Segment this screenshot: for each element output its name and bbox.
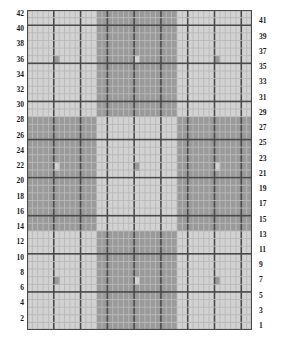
row-label-41: 41 <box>259 17 267 25</box>
row-label-21: 21 <box>259 170 267 178</box>
row-label-42: 42 <box>17 10 25 18</box>
row-label-14: 14 <box>17 223 25 231</box>
row-label-3: 3 <box>259 307 263 315</box>
row-label-31: 31 <box>259 94 267 102</box>
row-label-38: 38 <box>17 40 25 48</box>
row-labels-right-axis: 4139373533312927252321191715131197531 <box>252 0 283 341</box>
row-label-18: 18 <box>17 193 25 201</box>
row-label-24: 24 <box>17 147 25 155</box>
row-label-40: 40 <box>17 25 25 33</box>
chart-grid[interactable] <box>27 10 252 330</box>
row-label-23: 23 <box>259 155 267 163</box>
row-label-27: 27 <box>259 124 267 132</box>
row-label-2: 2 <box>20 315 24 323</box>
row-label-15: 15 <box>259 216 267 224</box>
row-labels-left-axis: 42403836343230282624222018161412108642 <box>0 0 27 341</box>
row-label-5: 5 <box>259 292 263 300</box>
row-label-10: 10 <box>17 254 25 262</box>
row-label-26: 26 <box>17 132 25 140</box>
row-label-20: 20 <box>17 177 25 185</box>
row-label-6: 6 <box>20 284 24 292</box>
row-label-35: 35 <box>259 63 267 71</box>
row-label-39: 39 <box>259 33 267 41</box>
row-label-19: 19 <box>259 185 267 193</box>
row-label-9: 9 <box>259 261 263 269</box>
knitting-chart: 42403836343230282624222018161412108642 4… <box>0 0 283 341</box>
row-label-32: 32 <box>17 86 25 94</box>
row-label-17: 17 <box>259 200 267 208</box>
row-label-1: 1 <box>259 322 263 330</box>
row-label-11: 11 <box>259 246 266 254</box>
row-label-22: 22 <box>17 162 25 170</box>
row-label-4: 4 <box>20 299 24 307</box>
row-label-13: 13 <box>259 231 267 239</box>
row-label-37: 37 <box>259 48 267 56</box>
row-label-7: 7 <box>259 276 263 284</box>
row-label-12: 12 <box>17 238 25 246</box>
row-label-36: 36 <box>17 56 25 64</box>
row-label-34: 34 <box>17 71 25 79</box>
row-label-25: 25 <box>259 139 267 147</box>
row-label-30: 30 <box>17 101 25 109</box>
row-label-29: 29 <box>259 109 267 117</box>
row-label-33: 33 <box>259 78 267 86</box>
chart-grid-canvas[interactable] <box>27 10 252 330</box>
row-label-16: 16 <box>17 208 25 216</box>
row-label-28: 28 <box>17 116 25 124</box>
row-label-8: 8 <box>20 269 24 277</box>
